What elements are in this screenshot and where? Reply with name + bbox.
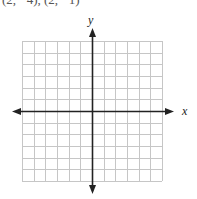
x-axis-right-arrow-icon: [165, 108, 174, 115]
x-axis-label: x: [181, 104, 188, 118]
y-axis-down-arrow-icon: [89, 185, 96, 194]
y-axis-up-arrow-icon: [89, 28, 96, 37]
coordinate-grid: x y: [0, 0, 197, 199]
y-axis-label: y: [87, 13, 94, 27]
x-axis-left-arrow-icon: [12, 108, 21, 115]
